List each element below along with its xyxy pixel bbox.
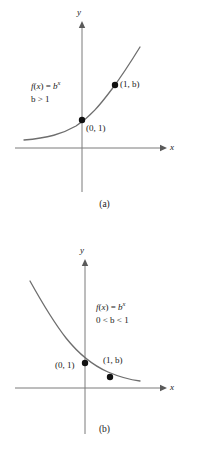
point-0-1-a [79, 117, 85, 123]
point-label-1-b-b: (1, b) [103, 355, 123, 366]
y-axis-label-b: y [80, 245, 84, 256]
condition-b: 0 < b < 1 [96, 315, 129, 326]
x-axis-a [15, 145, 167, 151]
plot-a-graphic [0, 0, 209, 226]
equation-block-b: f(x) = bx 0 < b < 1 [96, 300, 129, 327]
point-1-b-b [107, 374, 113, 380]
equation-b: f(x) = bx [96, 300, 129, 313]
plot-b-graphic [0, 226, 209, 451]
x-axis-label-a: x [170, 142, 174, 153]
caption-a: (a) [0, 199, 209, 209]
point-label-0-1-b: (0, 1) [55, 360, 75, 371]
figure-panel-b: y x f(x) = bx 0 < b < 1 (0, 1) (1, b) (b… [0, 226, 209, 451]
caption-b: (b) [0, 424, 209, 434]
y-axis-b [82, 259, 88, 434]
y-axis-a [79, 21, 85, 192]
figure-panel-a: y x f(x) = bx b > 1 (0, 1) (1, b) (a) [0, 0, 209, 226]
point-label-0-1-a: (0, 1) [86, 123, 106, 134]
point-1-b-a [112, 82, 118, 88]
equation-block-a: f(x) = bx b > 1 [31, 79, 60, 106]
x-axis-label-b: x [170, 382, 174, 393]
x-axis-b [15, 385, 167, 391]
point-0-1-b [82, 360, 88, 366]
condition-a: b > 1 [31, 94, 60, 105]
y-axis-label-a: y [77, 7, 81, 18]
equation-a: f(x) = bx [31, 79, 60, 92]
point-label-1-b-a: (1, b) [120, 79, 140, 90]
